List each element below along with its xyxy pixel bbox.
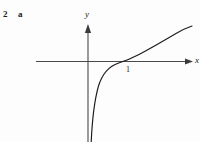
graph-canvas <box>0 0 200 142</box>
y-axis-arrowhead <box>85 24 91 33</box>
exercise-part-label: a <box>18 10 23 19</box>
y-axis-label: y <box>85 10 89 19</box>
figure-container: 2 a y x 1 <box>0 0 200 142</box>
x-intercept-tick-label: 1 <box>126 66 130 74</box>
x-axis-label: x <box>195 56 199 65</box>
exercise-number: 2 <box>3 10 8 19</box>
x-axis-arrowhead <box>185 58 193 64</box>
log-curve <box>91 26 192 142</box>
